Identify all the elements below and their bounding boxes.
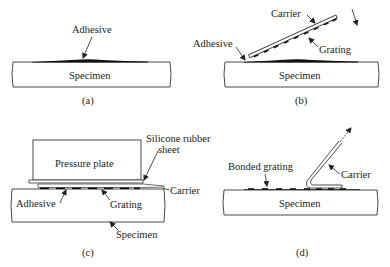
carrier	[307, 141, 343, 188]
grating-label: Grating	[319, 44, 352, 55]
caption-c: (c)	[82, 247, 94, 259]
grating-pointer	[309, 38, 318, 47]
specimen-label: Specimen	[279, 70, 321, 81]
grating-label: Grating	[110, 199, 143, 210]
panel-c: Pressure plate Silicone rubber sheet Car…	[11, 133, 211, 259]
specimen-label: Specimen	[116, 229, 158, 240]
panel-b: Carrier Grating Adhesive Specimen (b)	[193, 8, 379, 107]
carrier-label: Carrier	[170, 185, 200, 196]
carrier-pointer	[329, 165, 340, 174]
adhesive-pointer	[83, 37, 92, 58]
adhesive-layer	[32, 59, 148, 62]
silicone-label-line2: sheet	[158, 144, 180, 155]
specimen-label: Specimen	[69, 70, 111, 81]
panel-a: Adhesive Specimen (a)	[12, 24, 171, 107]
adhesive-label: Adhesive	[16, 198, 56, 209]
caption-a: (a)	[82, 95, 94, 107]
adhesive-pointer	[236, 47, 245, 60]
caption-b: (b)	[295, 95, 308, 107]
silicone-pointer	[144, 151, 158, 180]
pressure-plate-label: Pressure plate	[55, 158, 114, 169]
specimen-label: Specimen	[279, 198, 321, 209]
silicone-rubber-sheet	[29, 180, 143, 183]
caption-d: (d)	[296, 247, 309, 259]
adhesive-label: Adhesive	[72, 24, 112, 35]
grating-bonding-diagram: Adhesive Specimen (a) Carrier	[0, 0, 390, 267]
silicone-label-line1: Silicone rubber	[146, 133, 211, 144]
carrier-pointer	[307, 15, 315, 23]
adhesive-label: Adhesive	[193, 38, 233, 49]
specimen-pointer	[110, 222, 118, 230]
carrier-label: Carrier	[341, 169, 371, 180]
motion-arrow	[352, 9, 357, 25]
bonded-grating-pointer	[265, 174, 267, 186]
bonded-grating-label: Bonded grating	[228, 161, 294, 172]
panel-d: Bonded grating Carrier Specimen (d)	[223, 128, 378, 259]
peel-direction-arrow	[340, 128, 351, 142]
adhesive-layer	[244, 59, 358, 62]
carrier	[38, 184, 164, 188]
carrier-label: Carrier	[271, 8, 301, 19]
